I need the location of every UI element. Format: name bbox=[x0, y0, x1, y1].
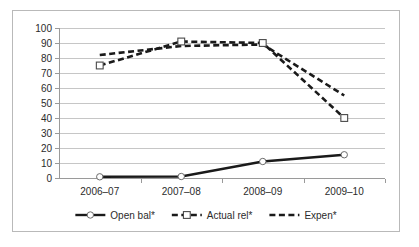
data-point-marker bbox=[97, 174, 103, 180]
y-tick-label: 100 bbox=[35, 23, 52, 34]
y-tick-label: 90 bbox=[41, 38, 53, 49]
y-axis-tick-labels: 0102030405060708090100 bbox=[35, 23, 52, 184]
y-tick-label: 80 bbox=[41, 53, 53, 64]
y-tick-label: 40 bbox=[41, 113, 53, 124]
legend-item-1[interactable]: Actual rel* bbox=[172, 210, 253, 221]
chart-border-frame: 0102030405060708090100 2006–072007–08200… bbox=[12, 10, 400, 232]
data-point-marker bbox=[178, 38, 185, 45]
series-line-2 bbox=[100, 45, 345, 96]
x-tick-label: 2008–09 bbox=[243, 186, 282, 197]
data-series-group bbox=[100, 42, 345, 177]
y-tick-label: 30 bbox=[41, 128, 53, 139]
series-line-0 bbox=[100, 155, 345, 177]
legend-item-2[interactable]: Expen* bbox=[269, 210, 336, 221]
y-tick-label: 70 bbox=[41, 68, 53, 79]
y-tick-label: 0 bbox=[46, 173, 52, 184]
chart-figure: 0102030405060708090100 2006–072007–08200… bbox=[0, 0, 419, 247]
data-point-marker bbox=[341, 152, 347, 158]
y-tick-label: 20 bbox=[41, 143, 53, 154]
data-point-marker bbox=[96, 62, 103, 69]
chart-legend: Open bal*Actual rel*Expen* bbox=[75, 210, 336, 221]
data-point-marker bbox=[341, 115, 348, 122]
x-tick-label: 2006–07 bbox=[80, 186, 119, 197]
y-tick-label: 50 bbox=[41, 98, 53, 109]
y-tick-label: 10 bbox=[41, 158, 53, 169]
legend-item-0[interactable]: Open bal* bbox=[75, 210, 155, 221]
line-chart: 0102030405060708090100 2006–072007–08200… bbox=[13, 11, 399, 231]
x-axis-tick-labels: 2006–072007–082008–092009–10 bbox=[80, 186, 364, 197]
data-point-marker bbox=[259, 40, 266, 47]
data-point-marker bbox=[178, 173, 184, 179]
x-tick-label: 2007–08 bbox=[162, 186, 201, 197]
legend-label: Actual rel* bbox=[207, 210, 253, 221]
series-line-1 bbox=[100, 42, 345, 119]
legend-marker bbox=[183, 212, 190, 219]
y-tick-label: 60 bbox=[41, 83, 53, 94]
legend-label: Expen* bbox=[304, 210, 336, 221]
legend-label: Open bal* bbox=[110, 210, 155, 221]
x-tick-label: 2009–10 bbox=[325, 186, 364, 197]
legend-marker bbox=[87, 212, 93, 218]
axes-group bbox=[55, 28, 386, 183]
data-point-marker bbox=[260, 158, 266, 164]
